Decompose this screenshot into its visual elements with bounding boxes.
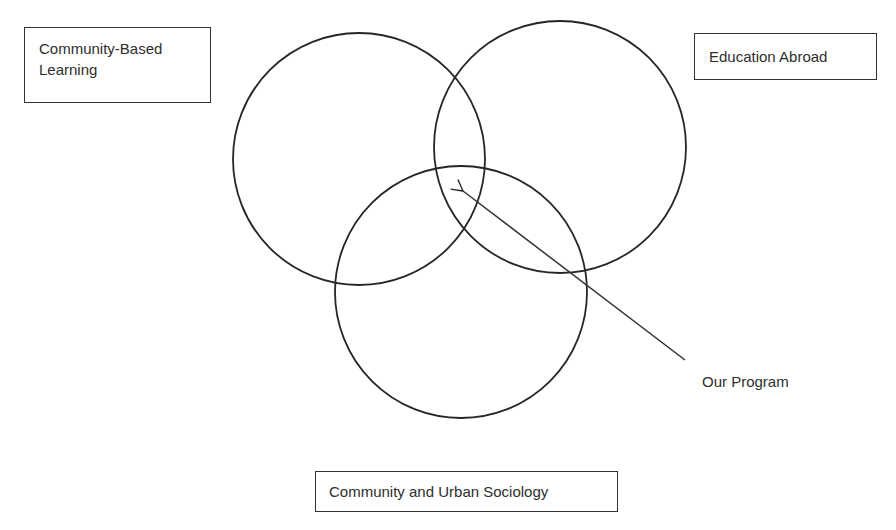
label-education-abroad: Education Abroad [709, 48, 827, 65]
circle-education-abroad [434, 21, 686, 273]
label-cbl-line1: Community-Based [39, 38, 210, 59]
label-cbl-line2: Learning [39, 59, 210, 80]
our-program-arrow [463, 191, 685, 360]
label-box-community-based-learning: Community-Based Learning [24, 27, 211, 103]
label-our-program: Our Program [702, 372, 789, 392]
circle-community-based-learning [233, 33, 485, 285]
label-box-community-urban-sociology: Community and Urban Sociology [315, 471, 618, 512]
circle-community-urban-sociology [335, 166, 587, 418]
label-community-urban-sociology: Community and Urban Sociology [329, 483, 548, 500]
label-box-education-abroad: Education Abroad [694, 33, 877, 80]
